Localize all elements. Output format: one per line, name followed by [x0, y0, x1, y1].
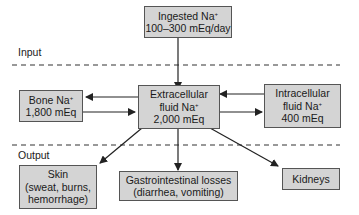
arrow-ecf-to-kidneys [210, 128, 278, 166]
ecf-sup: + [195, 102, 199, 108]
input-section-label: Input [18, 46, 41, 58]
icf-title: Intracellular [275, 87, 329, 100]
gastrointestinal-losses-box: Gastrointestinal losses (diarrhea, vomit… [119, 171, 238, 201]
skin-detail-1: (sweat, burns, [25, 181, 91, 194]
ecf-title: Extracellular [150, 88, 208, 101]
ingested-title: Ingested Na [158, 10, 215, 22]
kidneys-box: Kidneys [282, 168, 340, 190]
bone-title: Bone Na [29, 94, 70, 106]
output-section-label: Output [18, 149, 50, 161]
ingested-amount: 100–300 mEq/day [145, 22, 230, 35]
ecf-amount: 2,000 mEq [154, 113, 205, 126]
icf-sup: + [319, 101, 323, 107]
gi-detail: (diarrhea, vomiting) [133, 186, 223, 199]
icf-subtitle: fluid Na [283, 100, 319, 112]
kidneys-title: Kidneys [292, 173, 329, 186]
intracellular-fluid-box: Intracellular fluid Na+ 400 mEq [264, 84, 341, 128]
bone-sodium-box: Bone Na+ 1,800 mEq [19, 90, 83, 122]
ecf-subtitle: fluid Na [159, 101, 195, 113]
bone-sup: + [70, 95, 74, 101]
skin-box: Skin (sweat, burns, hemorrhage) [19, 165, 97, 209]
extracellular-fluid-box: Extracellular fluid Na+ 2,000 mEq [138, 85, 220, 129]
skin-detail-2: hemorrhage) [28, 193, 88, 206]
ingested-sup: + [215, 11, 219, 17]
icf-amount: 400 mEq [281, 112, 323, 125]
skin-title: Skin [48, 168, 68, 181]
gi-title: Gastrointestinal losses [126, 174, 232, 187]
bone-amount: 1,800 mEq [26, 106, 77, 119]
ingested-sodium-box: Ingested Na+ 100–300 mEq/day [144, 6, 232, 38]
